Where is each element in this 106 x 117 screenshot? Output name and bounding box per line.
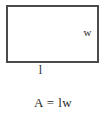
width-label: w [81, 26, 94, 39]
diagram-canvas: w l A = lw [0, 0, 106, 117]
length-label: l [34, 63, 47, 77]
area-formula: A = lw [0, 95, 106, 111]
